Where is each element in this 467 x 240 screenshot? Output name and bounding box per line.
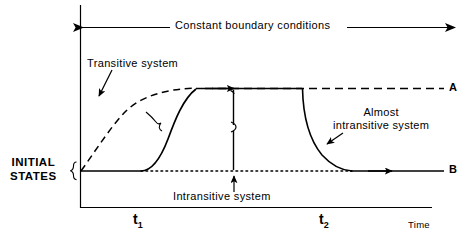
transitive-system-label: Transitive system (87, 57, 178, 69)
transitive-pointer-arrow (99, 70, 112, 96)
x-tick-label-t2: t2 (319, 211, 329, 230)
initial-states-brace (70, 162, 76, 180)
transitive-solid-curve (81, 89, 196, 171)
transitive-convergence-tick (146, 112, 162, 131)
figure-canvas: Constant boundary conditions Transitive … (0, 0, 467, 240)
almost-intransitive-line-2: intransitive system (333, 119, 429, 131)
almost-intransitive-line-1: Almost (363, 106, 398, 118)
level-b-label: B (449, 163, 457, 175)
initial-states-line-1: INITIAL (11, 156, 55, 168)
initial-states-label: INITIAL STATES (10, 155, 57, 183)
x-axis-label: Time (408, 219, 430, 230)
constant-boundary-conditions-label: Constant boundary conditions (175, 19, 330, 31)
intransitive-system-label: Intransitive system (173, 190, 271, 202)
level-a-label: A (449, 81, 457, 93)
almost-intransitive-pointer-arrow (327, 133, 343, 144)
transitive-dashed-curve (81, 88, 196, 171)
t1-subscript: 1 (138, 220, 143, 230)
almost-intransitive-system-label: Almost intransitive system (333, 106, 429, 132)
t2-subscript: 2 (324, 220, 329, 230)
intransitive-spread-brace (231, 122, 236, 132)
x-tick-label-t1: t1 (133, 211, 143, 230)
initial-states-line-2: STATES (10, 170, 57, 182)
